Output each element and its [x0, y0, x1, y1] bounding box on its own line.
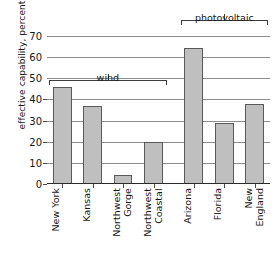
- bracket-wind: wind: [49, 74, 167, 92]
- bar-chart: effective capability, percent 0102030405…: [0, 0, 277, 255]
- y-tick-label-60: 60: [29, 52, 42, 63]
- y-tick-label-10: 10: [29, 157, 42, 168]
- y-tick-label-30: 30: [29, 115, 42, 126]
- y-tick-label-70: 70: [29, 31, 42, 42]
- bar-florida: [215, 123, 234, 184]
- bracket-label-photovoltaic: photovoltaic: [181, 12, 268, 23]
- y-tick-label-40: 40: [29, 94, 42, 105]
- x-axis-line: [47, 183, 270, 184]
- x-axis-label-3: Northwest Coastal: [143, 188, 164, 237]
- x-axis-label-4: Arizona: [183, 188, 194, 224]
- x-axis-label-0: New York: [51, 188, 62, 232]
- bracket-label-wind: wind: [49, 72, 167, 83]
- bar-kansas: [83, 106, 102, 184]
- bar-northwest-coastal: [144, 142, 163, 184]
- x-axis-labels: New YorkKansasNorthwest GorgeNorthwest C…: [47, 188, 270, 254]
- y-tick-mark-0: [43, 184, 47, 185]
- y-tick-label-0: 0: [36, 179, 42, 190]
- y-tick-label-50: 50: [29, 73, 42, 84]
- x-axis-label-2: Northwest Gorge: [112, 188, 133, 237]
- x-axis-label-1: Kansas: [82, 188, 93, 222]
- bracket-photovoltaic: photovoltaic: [181, 14, 268, 32]
- bar-new-york: [53, 87, 72, 184]
- plot-area: 010203040506070: [47, 36, 270, 184]
- y-axis-title: effective capability, percent: [17, 0, 27, 135]
- x-axis-label-6: New England: [244, 188, 265, 227]
- bar-new-england: [245, 104, 264, 184]
- y-tick-label-20: 20: [29, 136, 42, 147]
- x-axis-label-5: Florida: [213, 188, 224, 220]
- bar-arizona: [184, 48, 203, 184]
- bar-series: [47, 36, 270, 184]
